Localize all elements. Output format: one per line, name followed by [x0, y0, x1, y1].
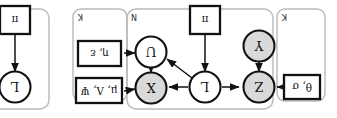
node-u[interactable]: U	[136, 37, 167, 68]
node-z[interactable]: Z	[244, 72, 275, 103]
node-x[interactable]: X	[136, 73, 167, 104]
node-y-label: Y	[254, 38, 264, 53]
node-l-label: L	[200, 79, 209, 94]
plate-k-right-label: K	[77, 12, 83, 21]
node-l2-label: L	[10, 79, 19, 94]
param-pi-2[interactable]: π	[0, 6, 30, 34]
plate-k-left-label: K	[281, 12, 287, 21]
param-eta-epsilon-label: η, ε	[90, 48, 108, 60]
node-y[interactable]: Y	[244, 31, 275, 62]
node-z-label: Z	[254, 79, 263, 94]
param-pi-2-label: π	[11, 14, 18, 26]
diagram-canvas: K N K N Z	[0, 0, 337, 118]
node-u-label: U	[145, 44, 156, 59]
plate-n-label: N	[131, 12, 137, 21]
edge-mu-to-x	[124, 89, 135, 91]
param-eta-epsilon[interactable]: η, ε	[78, 41, 121, 66]
param-pi-label: π	[201, 14, 208, 26]
edge-l-to-u	[167, 59, 192, 78]
node-l[interactable]: L	[190, 72, 221, 103]
graphical-model-svg: K N K N Z	[0, 0, 337, 118]
node-x-label: X	[146, 80, 156, 95]
param-pi[interactable]: π	[190, 6, 220, 34]
param-mu-lambda-psi[interactable]: μ, Λ, Ψ	[76, 78, 122, 103]
rotated-figure-group: K N K N Z	[0, 0, 337, 118]
param-theta-sigma[interactable]: θ, σ	[284, 75, 320, 99]
param-theta-sigma-label: θ, σ	[292, 81, 312, 93]
param-mu-lambda-psi-label: μ, Λ, Ψ	[81, 85, 118, 97]
node-l2[interactable]: L	[0, 72, 31, 103]
